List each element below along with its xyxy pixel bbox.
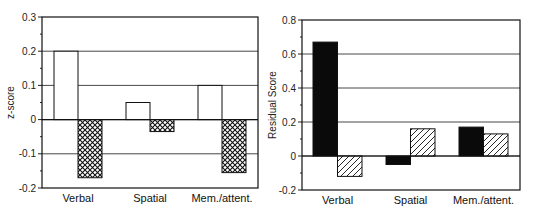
x-category-label: Mem./attent. <box>191 192 252 204</box>
bar-spatial-1 <box>386 156 411 165</box>
y-tick-label: 0.6 <box>282 49 296 60</box>
y-tick-label: 0.3 <box>22 12 36 23</box>
bar-spatial-2 <box>411 129 436 156</box>
y-tick-label: 0.1 <box>22 80 36 91</box>
bar-spatial-2 <box>150 120 174 132</box>
y-tick-label: 0.8 <box>282 15 296 26</box>
x-category-label: Mem./attent. <box>453 194 514 206</box>
y-tick-label: 0 <box>290 151 296 162</box>
x-category-label: Verbal <box>62 192 93 204</box>
y-axis-label: Residual Score <box>267 71 278 139</box>
y-axis-label: z-score <box>5 86 16 119</box>
bar-verbal-2 <box>78 120 102 178</box>
y-tick-label: 0.2 <box>22 46 36 57</box>
bar-mem-attent--1 <box>198 85 222 119</box>
y-tick-label: -0.2 <box>19 183 37 194</box>
z-score-chart: 0.30.20.10-0.1-0.2VerbalSpatialMem./atte… <box>0 0 265 219</box>
bar-verbal-1 <box>54 51 78 119</box>
residual-score-chart: 0.80.60.40.20-0.2VerbalSpatialMem./atten… <box>265 0 535 219</box>
bar-mem-attent--2 <box>222 120 246 173</box>
x-category-label: Spatial <box>394 194 428 206</box>
y-tick-label: -0.2 <box>279 185 297 196</box>
y-tick-label: -0.1 <box>19 148 37 159</box>
y-tick-label: 0.2 <box>282 117 296 128</box>
bar-mem-attent--2 <box>484 134 509 156</box>
x-category-label: Spatial <box>133 192 167 204</box>
bar-mem-attent--1 <box>459 127 484 156</box>
bar-spatial-1 <box>126 103 150 120</box>
y-tick-label: 0.4 <box>282 83 296 94</box>
x-category-label: Verbal <box>322 194 353 206</box>
y-tick-label: 0 <box>30 114 36 125</box>
bar-verbal-1 <box>313 42 338 156</box>
bar-verbal-2 <box>338 156 363 176</box>
